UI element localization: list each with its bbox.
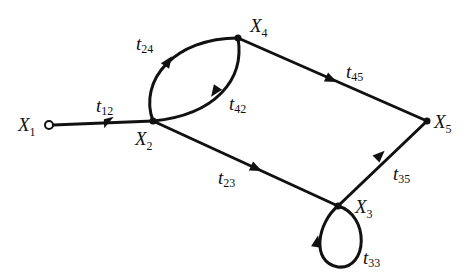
edge-label-t42: t42 [229,93,246,116]
edge-label-t35: t35 [393,163,410,186]
node-label-x3: X3 [354,196,373,221]
edge-t23 [153,121,338,206]
node-label-x4: X4 [249,15,268,40]
edge-label-t45: t45 [346,61,363,84]
edge-label-t12: t12 [96,95,113,118]
signal-flow-graph: X1 X2 X3 X4 X5 t12 t24 t42 t45 t23 t35 t… [0,0,474,280]
arrow-icon-t23 [249,161,264,175]
node-x1 [45,121,53,129]
node-label-x1: X1 [17,114,36,139]
edge-t24 [150,38,238,121]
node-x5 [424,118,431,125]
node-x4 [235,35,242,42]
edge-t35 [338,121,427,206]
edge-label-t24: t24 [136,33,153,56]
node-x2 [150,118,157,125]
edge-t12 [53,121,153,125]
node-label-x5: X5 [433,111,452,136]
node-x3 [335,203,342,210]
edge-t42 [153,38,239,121]
node-label-x2: X2 [134,128,153,153]
arrow-icon-t45 [324,72,339,86]
edge-label-t33: t33 [363,247,380,270]
edge-label-t23: t23 [218,167,235,190]
